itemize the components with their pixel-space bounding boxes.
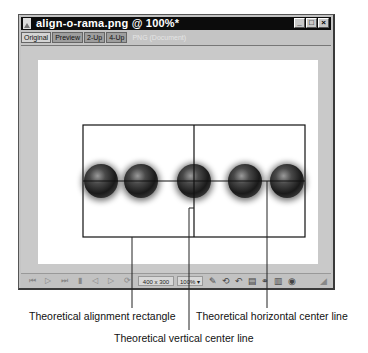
- document-image-icon: [23, 18, 33, 29]
- minimize-button[interactable]: _: [294, 18, 305, 28]
- info-icon[interactable]: ◉: [288, 276, 296, 286]
- view-tabs: Original Preview 2-Up 4-Up PNG (Document…: [21, 32, 331, 44]
- next-frame-icon[interactable]: ▷: [108, 275, 114, 287]
- maximize-button[interactable]: □: [306, 18, 317, 28]
- close-button[interactable]: ×: [318, 18, 329, 28]
- zoom-value: 100%: [180, 279, 195, 285]
- last-frame-icon[interactable]: ⏭: [61, 275, 68, 287]
- link-icon[interactable]: ⚭: [261, 276, 269, 286]
- window-title: align-o-rama.png @ 100%*: [36, 17, 179, 30]
- callout-vertical-center-line: Theoretical vertical center line: [114, 332, 253, 344]
- image-canvas[interactable]: [38, 60, 318, 264]
- play-icon[interactable]: ▷: [45, 275, 51, 287]
- tab-original[interactable]: Original: [21, 32, 51, 43]
- callout-alignment-rectangle: Theoretical alignment rectangle: [29, 310, 176, 322]
- document-view: [21, 45, 331, 274]
- tab-preview[interactable]: Preview: [52, 32, 83, 43]
- undo-icon[interactable]: ↶: [235, 276, 243, 286]
- resize-grip-icon[interactable]: ◢: [320, 276, 327, 286]
- pen-icon[interactable]: ✎: [209, 276, 217, 286]
- callout-horizontal-center-line: Theoretical horizontal center line: [196, 310, 348, 322]
- image-dimensions: 400 x 300: [138, 276, 174, 286]
- document-format-label: PNG (Document): [128, 32, 186, 44]
- stop-icon[interactable]: ▮: [78, 275, 82, 287]
- document-window: align-o-rama.png @ 100%* _ □ × Original …: [18, 14, 335, 290]
- loop-icon[interactable]: ⟳: [124, 275, 131, 287]
- prev-frame-icon[interactable]: ◁: [92, 275, 98, 287]
- status-bar: ⏮ ▷ ⏭ ▮ ◁ ▷ ⟳ 400 x 300 100% ▾ ✎ ⟲ ↶ ▤ ⚭…: [21, 273, 331, 288]
- tab-2-up[interactable]: 2-Up: [84, 32, 105, 43]
- library-icon[interactable]: ▥: [274, 276, 283, 286]
- title-bar[interactable]: align-o-rama.png @ 100%* _ □ ×: [21, 17, 331, 30]
- layers-icon[interactable]: ▤: [248, 276, 257, 286]
- tab-4-up[interactable]: 4-Up: [106, 32, 127, 43]
- chevron-down-icon: ▾: [197, 277, 200, 287]
- zoom-select[interactable]: 100% ▾: [177, 276, 203, 286]
- first-frame-icon[interactable]: ⏮: [29, 275, 36, 287]
- refresh-icon[interactable]: ⟲: [222, 276, 230, 286]
